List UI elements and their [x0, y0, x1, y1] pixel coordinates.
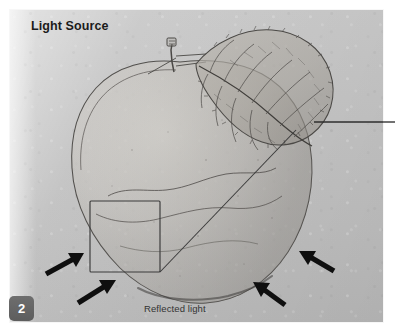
- reflected-light-arrow-right-upper: [299, 251, 334, 271]
- page-number-badge: 2: [9, 296, 34, 321]
- apple-shading-illustration: [0, 0, 395, 327]
- screenshot-root: Light Source Reflected light 2: [0, 0, 395, 327]
- reflected-light-arrow-left-upper: [46, 253, 84, 274]
- reflected-light-arrow-right-lower: [253, 282, 285, 305]
- reflected-light-arrow-left-lower: [78, 280, 116, 303]
